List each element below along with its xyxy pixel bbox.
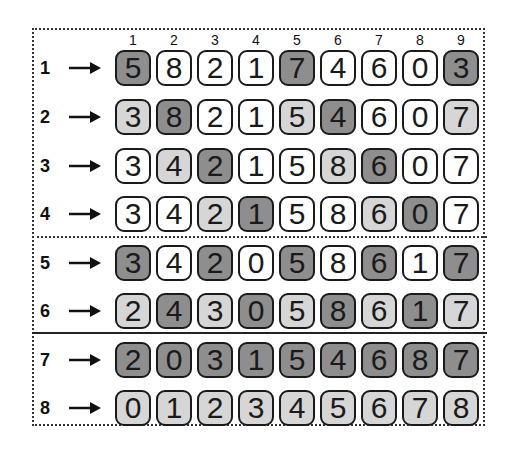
array-cell: 4 — [320, 99, 356, 135]
array-cell: 2 — [197, 148, 233, 184]
array-cell: 5 — [279, 245, 315, 281]
array-cell: 1 — [238, 50, 274, 86]
array-cell: 0 — [238, 245, 274, 281]
row-label: 3 — [40, 156, 60, 177]
array-cell: 5 — [279, 342, 315, 378]
array-cell: 7 — [443, 148, 479, 184]
array-cell: 0 — [402, 148, 438, 184]
row-label: 2 — [40, 107, 60, 128]
row-label: 8 — [40, 398, 60, 419]
array-cell: 3 — [238, 390, 274, 426]
column-header: 6 — [318, 32, 358, 48]
array-cell: 8 — [156, 50, 192, 86]
column-header: 9 — [441, 32, 481, 48]
array-cell: 0 — [115, 390, 151, 426]
array-cell: 7 — [402, 390, 438, 426]
row-label: 4 — [40, 204, 60, 225]
array-cell: 4 — [279, 390, 315, 426]
array-cell: 7 — [443, 293, 479, 329]
array-cell: 6 — [361, 245, 397, 281]
array-cell: 3 — [115, 99, 151, 135]
array-cell: 1 — [156, 390, 192, 426]
array-cell: 6 — [361, 50, 397, 86]
array-cell: 6 — [361, 196, 397, 232]
array-cell: 7 — [279, 50, 315, 86]
column-header: 7 — [359, 32, 399, 48]
array-cell: 8 — [443, 390, 479, 426]
array-cell: 4 — [156, 293, 192, 329]
array-cell: 6 — [361, 342, 397, 378]
array-cell: 2 — [197, 245, 233, 281]
array-cell: 3 — [115, 196, 151, 232]
array-cell: 8 — [156, 99, 192, 135]
array-cell: 0 — [402, 99, 438, 135]
array-cell: 8 — [320, 245, 356, 281]
array-cell: 2 — [197, 196, 233, 232]
array-cell: 8 — [320, 293, 356, 329]
array-cell: 5 — [279, 196, 315, 232]
group-separator-dotted — [32, 236, 487, 238]
arrow-right-icon — [68, 253, 102, 273]
arrow-right-icon — [68, 107, 102, 127]
arrow-right-icon — [68, 58, 102, 78]
array-cell: 4 — [320, 50, 356, 86]
arrow-right-icon — [68, 398, 102, 418]
array-cell: 1 — [238, 148, 274, 184]
array-cell: 1 — [238, 342, 274, 378]
array-cell: 7 — [443, 196, 479, 232]
arrow-right-icon — [68, 350, 102, 370]
array-cell: 4 — [320, 342, 356, 378]
array-cell: 3 — [115, 245, 151, 281]
array-cell: 6 — [361, 293, 397, 329]
array-cell: 5 — [115, 50, 151, 86]
column-header: 1 — [113, 32, 153, 48]
array-cell: 2 — [115, 342, 151, 378]
arrow-right-icon — [68, 204, 102, 224]
array-cell: 0 — [402, 196, 438, 232]
array-cell: 2 — [197, 390, 233, 426]
array-cell: 0 — [156, 342, 192, 378]
array-cell: 4 — [156, 148, 192, 184]
array-cell: 6 — [361, 148, 397, 184]
row-label: 6 — [40, 301, 60, 322]
array-cell: 2 — [115, 293, 151, 329]
array-cell: 3 — [115, 148, 151, 184]
array-cell: 5 — [279, 148, 315, 184]
array-cell: 1 — [238, 196, 274, 232]
column-header: 3 — [195, 32, 235, 48]
array-cell: 2 — [197, 50, 233, 86]
array-cell: 5 — [279, 293, 315, 329]
array-cell: 7 — [443, 99, 479, 135]
array-cell: 5 — [279, 99, 315, 135]
array-cell: 4 — [156, 245, 192, 281]
group-separator-solid — [32, 332, 487, 334]
array-cell: 8 — [402, 342, 438, 378]
arrow-right-icon — [68, 156, 102, 176]
array-cell: 7 — [443, 342, 479, 378]
array-cell: 5 — [320, 390, 356, 426]
row-label: 5 — [40, 253, 60, 274]
column-header: 5 — [277, 32, 317, 48]
array-cell: 0 — [238, 293, 274, 329]
array-cell: 1 — [402, 293, 438, 329]
array-cell: 8 — [320, 196, 356, 232]
row-label: 7 — [40, 350, 60, 371]
array-cell: 6 — [361, 99, 397, 135]
array-cell: 1 — [402, 245, 438, 281]
array-cell: 6 — [361, 390, 397, 426]
array-cell: 8 — [320, 148, 356, 184]
array-cell: 2 — [197, 99, 233, 135]
column-header: 4 — [236, 32, 276, 48]
column-header: 2 — [154, 32, 194, 48]
row-label: 1 — [40, 58, 60, 79]
array-cell: 7 — [443, 245, 479, 281]
array-cell: 0 — [402, 50, 438, 86]
array-cell: 3 — [197, 293, 233, 329]
array-cell: 3 — [197, 342, 233, 378]
column-header: 8 — [400, 32, 440, 48]
array-cell: 3 — [443, 50, 479, 86]
array-cell: 4 — [156, 196, 192, 232]
array-cell: 1 — [238, 99, 274, 135]
arrow-right-icon — [68, 301, 102, 321]
